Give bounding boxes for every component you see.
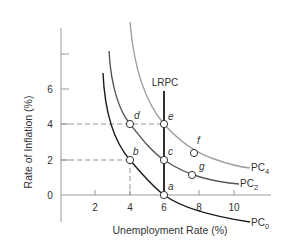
y-tick-2: 2: [47, 155, 53, 166]
x-tick-4: 4: [127, 202, 133, 213]
pc4-label: PC4: [251, 162, 269, 176]
y-tick-4: 4: [47, 119, 53, 130]
x-tick-6: 6: [161, 202, 167, 213]
point-a-label: a: [168, 181, 174, 192]
point-c-label: c: [168, 146, 173, 157]
point-e: [160, 120, 167, 127]
point-e-label: e: [168, 111, 174, 122]
point-a: [160, 191, 167, 198]
y-axis-title: Rate of Inflation (%): [22, 96, 34, 189]
pc0-curve: [103, 73, 250, 222]
point-b: [126, 156, 133, 163]
reference-lines: [61, 124, 164, 195]
lrpc-label: LRPC: [152, 77, 179, 88]
phillips-curve-chart: 6 4 2 0 2 4 6 8 10 Unemployment Rate (%)…: [0, 0, 287, 249]
point-d: [126, 120, 133, 127]
point-c: [160, 156, 167, 163]
x-tick-2: 2: [92, 202, 98, 213]
y-tick-6: 6: [47, 84, 53, 95]
y-ticks: [61, 54, 69, 160]
pc2-label: PC2: [240, 178, 258, 192]
y-tick-0: 0: [47, 190, 53, 201]
point-g: [188, 171, 195, 178]
point-f: [190, 149, 197, 156]
pc2-curve: [109, 51, 239, 184]
point-f-label: f: [197, 135, 201, 146]
x-tick-10: 10: [228, 202, 240, 213]
pc0-label: PC0: [251, 217, 269, 231]
point-g-label: g: [199, 161, 205, 172]
x-axis-title: Unemployment Rate (%): [113, 224, 228, 236]
point-b-label: b: [133, 146, 139, 157]
point-d-label: d: [134, 110, 140, 121]
